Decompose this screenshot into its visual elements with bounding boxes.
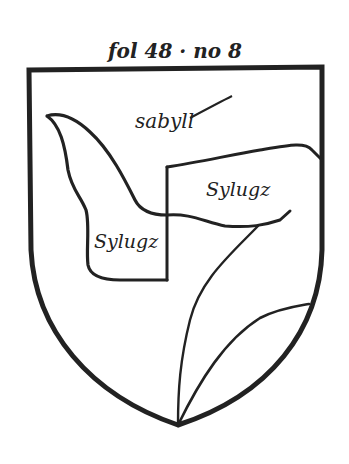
- shield-drawing: fol 48 · no 8 sabyll Sylugz Sylugz: [0, 0, 349, 464]
- label-right-flag: Sylugz: [206, 178, 271, 200]
- label-left-flag: Sylugz: [94, 230, 159, 252]
- left-flag-shape: [47, 115, 167, 280]
- leaf-shape: [178, 304, 309, 425]
- folio-caption: fol 48 · no 8: [106, 39, 242, 63]
- stem-curve: [178, 226, 258, 425]
- right-flag-top: [167, 145, 322, 167]
- label-chief-flourish: [190, 96, 232, 118]
- label-chief: sabyll: [135, 109, 194, 133]
- right-flag-bottom: [167, 211, 290, 227]
